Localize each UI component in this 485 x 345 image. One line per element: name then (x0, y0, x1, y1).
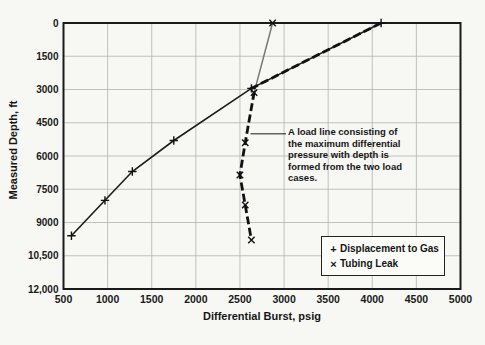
y-tick-label: 9000 (36, 217, 59, 228)
legend-label: Tubing Leak (340, 258, 398, 269)
x-tick-label: 4000 (361, 293, 385, 305)
x-tick-label: 4500 (405, 293, 429, 305)
y-axis-label: Measured Depth, ft (7, 100, 19, 199)
y-tick-label: 0 (53, 18, 59, 29)
tubing-leak-marker (248, 237, 254, 243)
x-tick-label: 3000 (272, 293, 296, 305)
legend-label: Displacement to Gas (340, 243, 439, 254)
y-tick-label: 12,000 (28, 284, 59, 295)
legend-box: + Displacement to Gas × Tubing Leak (321, 236, 445, 276)
y-tick-label: 1500 (36, 51, 59, 62)
x-tick-label: 5000 (449, 293, 473, 305)
y-tick-label: 7500 (36, 184, 59, 195)
plus-marker-icon: + (327, 243, 340, 255)
legend-item-displacement-to-gas: + Displacement to Gas (327, 241, 442, 256)
legend-item-tubing-leak: × Tubing Leak (327, 256, 442, 271)
y-tick-label: 3000 (36, 84, 59, 95)
y-tick-label: 6000 (36, 151, 59, 162)
x-tick-label: 3500 (316, 293, 340, 305)
x-tick-label: 1000 (96, 293, 120, 305)
x-tick-label: 2500 (228, 293, 252, 305)
y-tick-label: 4500 (36, 117, 59, 128)
x-tick-label: 500 (55, 293, 73, 305)
x-tick-label: 1500 (140, 293, 164, 305)
load-line-annotation: A load line consisting of the maximum di… (288, 126, 430, 184)
y-tick-label: 10,500 (28, 250, 59, 261)
x-tick-label: 2000 (184, 293, 208, 305)
burst-design-chart-figure: 5001000150020002500300035004000450050000… (0, 0, 485, 345)
x-marker-icon: × (327, 258, 340, 270)
x-axis-label: Differential Burst, psig (63, 310, 461, 322)
